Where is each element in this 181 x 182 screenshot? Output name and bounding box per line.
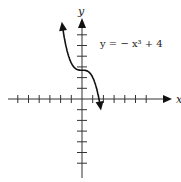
y-axis (77, 18, 87, 178)
x-axis-arrow-icon (163, 95, 172, 103)
y-axis-label: y (77, 5, 85, 18)
y-axis-arrow-icon (78, 18, 86, 28)
curve-arrow-down-icon (96, 101, 104, 111)
curve-arrow-up-icon (59, 22, 67, 31)
cubic-curve (62, 25, 100, 108)
equation-label: y = − x³ + 4 (99, 38, 163, 49)
x-axis (8, 95, 172, 103)
cubic-function-graph: x y y = − x³ + 4 (0, 0, 181, 182)
x-axis-label: x (176, 93, 181, 106)
